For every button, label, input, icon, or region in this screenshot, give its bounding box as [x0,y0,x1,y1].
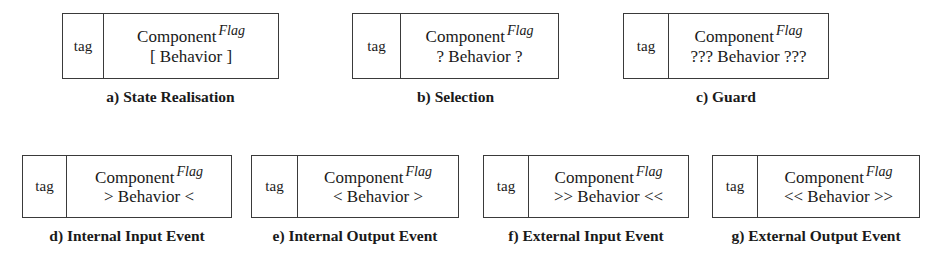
flag-label-e: Flag [405,164,431,179]
component-name-b: Component [426,27,505,46]
flag-label-f: Flag [636,164,662,179]
component-name-a: Component [137,27,216,46]
component-line-b: ComponentFlag [426,24,534,46]
notation-box-c: tag ComponentFlag ??? Behavior ??? [623,13,829,79]
caption-a: a) State Realisation [62,88,279,106]
body-cell-d: ComponentFlag > Behavior < [67,156,231,217]
body-cell-f: ComponentFlag >> Behavior << [529,156,688,217]
notation-item-c: tag ComponentFlag ??? Behavior ??? c) Gu… [623,13,829,106]
tag-cell-g: tag [713,156,758,217]
flag-label-b: Flag [507,23,533,38]
component-name-c: Component [695,27,774,46]
body-cell-a: ComponentFlag [ Behavior ] [104,14,278,78]
flag-label-c: Flag [776,23,802,38]
notation-item-d: tag ComponentFlag > Behavior < d) Intern… [22,155,232,245]
component-line-a: ComponentFlag [137,24,245,46]
notation-box-e: tag ComponentFlag < Behavior > [251,155,459,218]
notation-box-d: tag ComponentFlag > Behavior < [22,155,232,218]
caption-f: f) External Input Event [483,227,689,245]
notation-item-g: tag ComponentFlag << Behavior >> g) Exte… [712,155,920,245]
tag-cell-c: tag [624,14,669,78]
component-name-g: Component [785,168,864,187]
body-cell-c: ComponentFlag ??? Behavior ??? [669,14,828,78]
notation-box-f: tag ComponentFlag >> Behavior << [483,155,689,218]
notation-box-a: tag ComponentFlag [ Behavior ] [62,13,279,79]
caption-b: b) Selection [352,88,559,106]
notation-figure: tag ComponentFlag [ Behavior ] a) State … [0,0,939,269]
component-line-g: ComponentFlag [785,165,893,187]
behavior-line-a: [ Behavior ] [150,47,232,67]
caption-e: e) Internal Output Event [251,227,459,245]
component-line-e: ComponentFlag [324,165,432,187]
behavior-line-d: > Behavior < [104,187,194,207]
tag-cell-b: tag [353,14,401,78]
caption-g: g) External Output Event [712,227,920,245]
component-name-e: Component [324,168,403,187]
behavior-line-g: << Behavior >> [784,187,893,207]
behavior-line-f: >> Behavior << [554,187,663,207]
body-cell-g: ComponentFlag << Behavior >> [758,156,919,217]
tag-cell-f: tag [484,156,529,217]
tag-cell-e: tag [252,156,298,217]
caption-c: c) Guard [623,88,829,106]
component-name-f: Component [555,168,634,187]
notation-item-a: tag ComponentFlag [ Behavior ] a) State … [62,13,279,106]
component-name-d: Component [95,168,174,187]
behavior-line-c: ??? Behavior ??? [690,47,806,67]
notation-box-b: tag ComponentFlag ? Behavior ? [352,13,559,79]
tag-cell-a: tag [63,14,104,78]
behavior-line-e: < Behavior > [333,187,423,207]
body-cell-b: ComponentFlag ? Behavior ? [401,14,558,78]
flag-label-a: Flag [218,23,244,38]
component-line-f: ComponentFlag [555,165,663,187]
body-cell-e: ComponentFlag < Behavior > [298,156,458,217]
tag-cell-d: tag [23,156,67,217]
flag-label-d: Flag [176,164,202,179]
notation-item-b: tag ComponentFlag ? Behavior ? b) Select… [352,13,559,106]
notation-item-f: tag ComponentFlag >> Behavior << f) Exte… [483,155,689,245]
flag-label-g: Flag [866,164,892,179]
caption-d: d) Internal Input Event [22,227,232,245]
behavior-line-b: ? Behavior ? [437,47,523,67]
component-line-d: ComponentFlag [95,165,203,187]
notation-item-e: tag ComponentFlag < Behavior > e) Intern… [251,155,459,245]
notation-box-g: tag ComponentFlag << Behavior >> [712,155,920,218]
component-line-c: ComponentFlag [695,24,803,46]
